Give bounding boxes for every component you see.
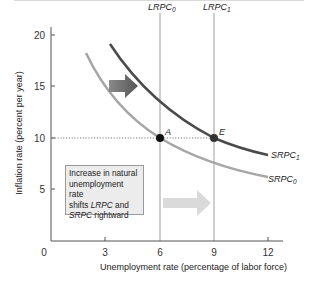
x-tick-label-0: 0: [41, 247, 47, 258]
annotation-line-1: Increase in natural: [69, 168, 140, 179]
srpc1-label: SRPC1: [271, 150, 300, 161]
y-tick-label-15: 15: [34, 81, 46, 92]
x-tick-label-6: 6: [157, 247, 163, 258]
srpc0-label: SRPC0: [268, 174, 297, 185]
lrpc0-label: LRPC0: [148, 2, 176, 13]
annotation-line-4: SRPC rightward: [69, 210, 140, 221]
point-a-marker: [156, 134, 164, 142]
y-tick-label-10: 10: [34, 133, 46, 144]
x-tick-label-3: 3: [102, 247, 108, 258]
point-e-marker: [210, 134, 218, 142]
point-e-label: E: [219, 127, 226, 137]
annotation-line-2: unemployment rate: [69, 179, 140, 200]
lrpc1-label: LRPC1: [203, 2, 231, 13]
point-a-label: A: [164, 127, 171, 137]
lrpc-shift-arrow-icon: [163, 190, 211, 216]
y-tick-label-20: 20: [34, 30, 46, 41]
y-axis-label: Inflation rate (percent per year): [14, 71, 24, 195]
srpc-shift-arrow-icon: [109, 74, 138, 98]
phillips-curve-chart: 20 15 10 5 0 3 6 9 12 Unemployment rate …: [0, 0, 319, 281]
x-axis-label: Unemployment rate (percentage of labor f…: [100, 262, 287, 272]
annotation-box: Increase in natural unemployment rate sh…: [65, 165, 144, 215]
annotation-line-3: shifts LRPC and: [69, 200, 140, 211]
x-tick-label-9: 9: [211, 247, 217, 258]
x-tick-label-12: 12: [262, 247, 274, 258]
y-tick-label-5: 5: [39, 184, 45, 195]
